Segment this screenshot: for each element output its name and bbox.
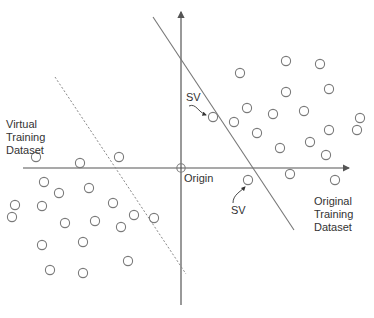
- sv-lower-arrow-icon: [233, 187, 245, 203]
- virtual-data-point: [90, 216, 99, 225]
- virtual-data-point: [84, 183, 93, 192]
- virtual-label-line2: Training: [6, 131, 45, 143]
- sv-lower-label: SV: [231, 204, 246, 216]
- sv-upper-arrow-icon: [189, 105, 206, 115]
- virtual-data-point: [149, 213, 158, 222]
- original-data-point: [229, 117, 238, 126]
- virtual-data-point: [114, 152, 123, 161]
- virtual-label-line3: Dataset: [6, 144, 44, 156]
- original-data-point: [305, 137, 314, 146]
- virtual-data-point: [37, 240, 46, 249]
- sv-upper-label: SV: [186, 91, 201, 103]
- original-data-point: [352, 125, 361, 134]
- virtual-data-point: [116, 222, 125, 231]
- original-data-point: [281, 87, 290, 96]
- original-label-line1: Original: [314, 195, 352, 207]
- original-data-point: [252, 128, 261, 137]
- original-training-points: [229, 56, 364, 184]
- virtual-data-point: [78, 268, 87, 277]
- virtual-data-point: [39, 177, 48, 186]
- original-data-point: [330, 175, 339, 184]
- virtual-data-point: [123, 256, 132, 265]
- original-label-line2: Training: [314, 208, 353, 220]
- original-data-point: [299, 106, 308, 115]
- virtual-data-point: [75, 158, 84, 167]
- virtual-data-point: [37, 201, 46, 210]
- virtual-data-point: [129, 210, 138, 219]
- virtual-data-point: [10, 200, 19, 209]
- support-vector-point: [243, 175, 252, 184]
- virtual-data-point: [60, 218, 69, 227]
- original-dataset-label: Original Training Dataset: [314, 195, 353, 233]
- svm-diagram: Virtual Training Dataset Original Traini…: [0, 0, 374, 318]
- original-data-point: [321, 150, 330, 159]
- original-hyperplane: [153, 17, 294, 230]
- original-data-point: [268, 109, 277, 118]
- original-data-point: [315, 59, 324, 68]
- virtual-label-line1: Virtual: [6, 118, 37, 130]
- virtual-hyperplane: [55, 77, 186, 274]
- axes: [23, 12, 349, 305]
- original-data-point: [242, 103, 251, 112]
- original-data-point: [324, 125, 333, 134]
- original-label-line3: Dataset: [314, 221, 352, 233]
- support-vector-points: [208, 112, 252, 184]
- virtual-data-point: [108, 198, 117, 207]
- virtual-data-point: [78, 237, 87, 246]
- support-vector-point: [208, 112, 217, 121]
- original-data-point: [324, 84, 333, 93]
- origin-label: Origin: [184, 172, 213, 184]
- virtual-training-points: [7, 152, 158, 277]
- virtual-data-point: [7, 212, 16, 221]
- virtual-data-point: [54, 188, 63, 197]
- original-data-point: [235, 68, 244, 77]
- virtual-dataset-label: Virtual Training Dataset: [6, 118, 45, 156]
- virtual-data-point: [45, 265, 54, 274]
- original-data-point: [275, 143, 284, 152]
- original-data-point: [281, 56, 290, 65]
- original-data-point: [355, 113, 364, 122]
- original-data-point: [285, 169, 294, 178]
